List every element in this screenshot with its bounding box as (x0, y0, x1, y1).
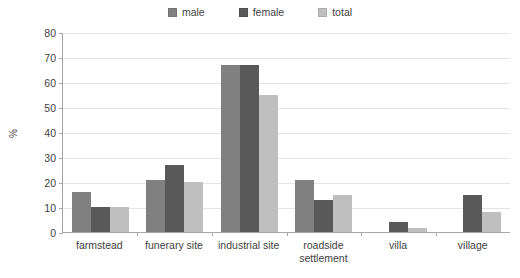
x-axis-label: funerary site (137, 239, 212, 265)
x-axis-label-line: roadside (286, 239, 361, 252)
y-tick-label: 40 (44, 128, 56, 139)
x-axis-label-line: funerary site (137, 239, 212, 252)
bar-male (295, 180, 314, 233)
x-axis-label-line: villa (361, 239, 436, 252)
legend-label-male: male (182, 7, 205, 18)
legend-item-female: female (239, 7, 285, 18)
bar-total (184, 182, 203, 232)
x-tick-mark (361, 232, 362, 236)
bar-female (165, 165, 184, 233)
bar-group (436, 33, 511, 232)
x-tick-mark (212, 232, 213, 236)
legend-label-total: total (332, 7, 352, 18)
y-tick-mark (59, 233, 63, 234)
legend-label-female: female (253, 7, 285, 18)
x-axis-label-line: industrial site (211, 239, 286, 252)
bar-male (221, 65, 240, 233)
legend-swatch-male-icon (168, 8, 177, 17)
bar-male (146, 180, 165, 233)
bars-layer (63, 33, 510, 232)
y-tick-label: 50 (44, 103, 56, 114)
y-tick-label: 10 (44, 203, 56, 214)
bar-chart: male female total % 01020304050607080 fa… (0, 0, 520, 278)
x-tick-mark (436, 232, 437, 236)
bar-group (361, 33, 436, 232)
bar-female (389, 222, 408, 232)
y-axis-label: % (8, 129, 19, 138)
x-tick-mark (287, 232, 288, 236)
x-axis-label: village (435, 239, 510, 265)
y-tick-label: 30 (44, 153, 56, 164)
chart-legend: male female total (0, 7, 520, 18)
x-axis-labels: farmsteadfunerary siteindustrial siteroa… (62, 239, 510, 265)
bar-total (408, 228, 427, 232)
x-axis-label-line: farmstead (62, 239, 137, 252)
y-tick-label: 0 (50, 228, 56, 239)
bar-total (333, 195, 352, 233)
legend-swatch-female-icon (239, 8, 248, 17)
x-axis-label: industrial site (211, 239, 286, 265)
bar-total (482, 212, 501, 232)
x-axis-label: villa (361, 239, 436, 265)
bar-female (240, 65, 259, 233)
y-tick-label: 60 (44, 78, 56, 89)
x-axis-label-line: settlement (286, 252, 361, 265)
y-tick-label: 20 (44, 178, 56, 189)
legend-item-total: total (318, 7, 352, 18)
bar-group (63, 33, 138, 232)
x-axis-label-line: village (435, 239, 510, 252)
bar-total (110, 207, 129, 232)
bar-female (463, 195, 482, 233)
x-axis-label: farmstead (62, 239, 137, 265)
bar-group (138, 33, 213, 232)
bar-total (259, 95, 278, 233)
legend-swatch-total-icon (318, 8, 327, 17)
y-tick-label: 70 (44, 53, 56, 64)
bar-male (72, 192, 91, 232)
bar-female (314, 200, 333, 233)
bar-group (212, 33, 287, 232)
plot-wrapper: 01020304050607080 (62, 33, 510, 233)
x-tick-mark (137, 232, 138, 236)
y-tick-label: 80 (44, 28, 56, 39)
plot-area: 01020304050607080 (62, 33, 510, 233)
bar-group (287, 33, 362, 232)
legend-item-male: male (168, 7, 205, 18)
x-axis-label: roadsidesettlement (286, 239, 361, 265)
bar-female (91, 207, 110, 232)
